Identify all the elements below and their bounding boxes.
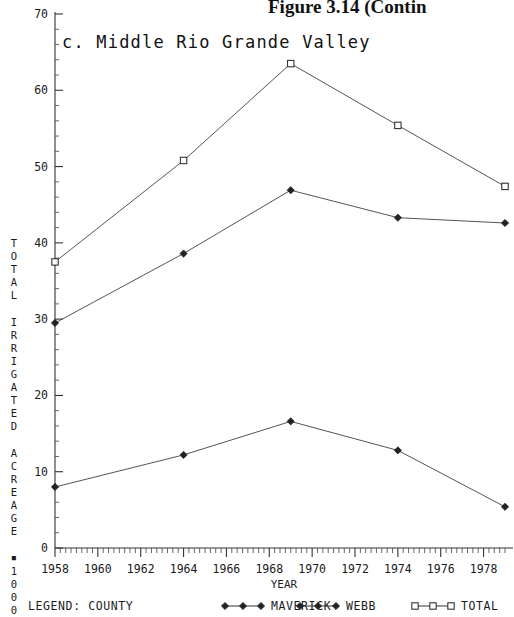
y-axis-title-char: A [11, 499, 18, 511]
y-axis-title-char: E [11, 486, 17, 498]
legend-marker-total [430, 603, 436, 609]
y-axis-title-char: E [11, 407, 17, 419]
x-tick-label: 1976 [427, 562, 455, 576]
legend-marker-maverick [221, 602, 228, 609]
data-series-group [51, 60, 508, 510]
x-tick-label: 1968 [255, 562, 283, 576]
x-tick-label: 1964 [170, 562, 198, 576]
legend-marker-webb [332, 602, 339, 609]
y-axis-title-char: D [11, 420, 17, 432]
x-tick-label: 1966 [213, 562, 241, 576]
marker-webb [394, 447, 401, 454]
y-axis-title-char: 0 [11, 578, 17, 590]
marker-maverick [287, 187, 294, 194]
y-axis-title-char: G [11, 512, 17, 524]
marker-webb [287, 418, 294, 425]
legend-marker-maverick [239, 602, 246, 609]
marker-webb [501, 503, 508, 510]
legend-label-webb: WEBB [346, 599, 376, 613]
y-axis-title-char: R [11, 473, 18, 485]
y-axis-title-char: G [11, 368, 17, 380]
marker-maverick [394, 214, 401, 221]
marker-total [180, 157, 186, 163]
y-tick-label: 30 [34, 312, 48, 326]
marker-webb [51, 483, 58, 490]
y-axis-title-char: T [11, 237, 18, 249]
x-tick-label: 1974 [384, 562, 412, 576]
y-axis-title: TOTALIRRIGATEDACREAGE▪1000 [11, 237, 18, 616]
y-axis-title-char: A [11, 447, 18, 459]
legend-marker-total [412, 603, 418, 609]
y-axis-title-char: I [11, 355, 17, 367]
y-axis-title-char: T [11, 263, 18, 275]
chart-subtitle: c. Middle Rio Grande Valley [62, 32, 371, 52]
y-axis-title-char: A [11, 276, 18, 288]
y-axis-title-char: ▪ [11, 551, 17, 563]
legend-prefix: LEGEND: COUNTY [28, 599, 133, 613]
series-line-total [55, 64, 505, 262]
legend-label-total: TOTAL [461, 599, 499, 613]
marker-total [52, 259, 58, 265]
legend-marker-total [448, 603, 454, 609]
y-tick-label: 10 [34, 465, 48, 479]
x-tick-label: 1960 [84, 562, 112, 576]
y-tick-label: 50 [34, 160, 48, 174]
y-axis-title-char: I [11, 316, 17, 328]
series-line-maverick [55, 190, 505, 323]
x-tick-label: 1962 [127, 562, 155, 576]
x-tick-label: 1978 [470, 562, 498, 576]
y-axis-title-char: T [11, 394, 18, 406]
y-tick-label: 70 [34, 7, 48, 21]
x-tick-label: 1972 [341, 562, 369, 576]
y-tick-label: 20 [34, 388, 48, 402]
marker-maverick [51, 319, 58, 326]
y-axis-title-char: C [11, 460, 17, 472]
marker-total [288, 60, 294, 66]
x-tick-label: 1958 [41, 562, 69, 576]
marker-total [395, 122, 401, 128]
x-axis-title: YEAR [271, 578, 298, 591]
y-axis-title-char: E [11, 525, 17, 537]
y-tick-label: 0 [41, 541, 48, 555]
chart-plot-area: 010203040506070 195819601962196419661968… [0, 0, 514, 617]
marker-maverick [501, 219, 508, 226]
y-axis-title-char: R [11, 342, 18, 354]
marker-webb [180, 451, 187, 458]
y-axis: 010203040506070 [34, 7, 63, 555]
y-axis-title-char: L [11, 289, 17, 301]
y-axis-title-char: R [11, 329, 18, 341]
y-axis-title-char: 0 [11, 591, 17, 603]
y-axis-title-char: 1 [11, 565, 17, 577]
y-tick-label: 40 [34, 236, 48, 250]
chart-svg: 010203040506070 195819601962196419661968… [0, 0, 514, 617]
marker-maverick [180, 250, 187, 257]
legend-marker-maverick [257, 602, 264, 609]
series-line-webb [55, 421, 505, 506]
x-axis: 1958196019621964196619681970197219741976… [41, 548, 513, 576]
y-tick-label: 60 [34, 83, 48, 97]
y-axis-title-char: 0 [11, 604, 17, 616]
y-axis-title-char: O [11, 250, 17, 262]
marker-total [502, 183, 508, 189]
x-tick-label: 1970 [298, 562, 326, 576]
y-axis-title-char: A [11, 381, 18, 393]
chart-legend: LEGEND: COUNTYMAVERICKWEBBTOTAL [28, 599, 499, 613]
